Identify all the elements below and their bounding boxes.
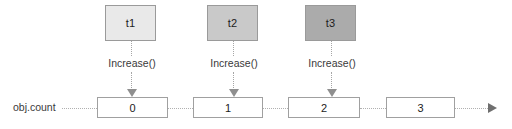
value-box-1-label: 1 [225,102,231,114]
timeline-segment-3 [360,108,386,109]
connector-t1-lower [131,72,132,90]
value-box-1[interactable]: 1 [193,97,263,118]
call-label-t3: Increase() [301,57,363,69]
call-label-t1: Increase() [101,57,163,69]
value-box-0-label: 0 [129,102,135,114]
value-box-2-label: 2 [321,102,327,114]
timeline-segment-1 [168,108,193,109]
thread-box-t2[interactable]: t2 [207,5,258,41]
diagram-canvas: t1 t2 t3 Increase() Increase() Increase(… [0,0,512,129]
arrow-down-icon-t3 [327,89,337,97]
thread-box-t3-label: t3 [326,17,335,29]
thread-box-t1[interactable]: t1 [105,5,156,41]
connector-t2-upper [233,41,234,56]
arrow-right-icon-timeline [488,103,497,113]
arrow-down-icon-t2 [229,89,239,97]
thread-box-t2-label: t2 [228,17,237,29]
timeline-segment-start [62,108,97,109]
value-box-3-label: 3 [417,102,423,114]
value-box-3[interactable]: 3 [386,97,455,118]
thread-box-t3[interactable]: t3 [305,5,356,41]
connector-t2-lower [233,72,234,90]
arrow-down-icon-t1 [127,89,137,97]
connector-t3-lower [331,72,332,90]
timeline-label: obj.count [13,101,56,113]
timeline-segment-end [455,108,488,109]
connector-t3-upper [331,41,332,56]
thread-box-t1-label: t1 [126,17,135,29]
value-box-2[interactable]: 2 [288,97,360,118]
timeline-segment-2 [263,108,288,109]
call-label-t2: Increase() [203,57,265,69]
value-box-0[interactable]: 0 [97,97,168,118]
connector-t1-upper [131,41,132,56]
